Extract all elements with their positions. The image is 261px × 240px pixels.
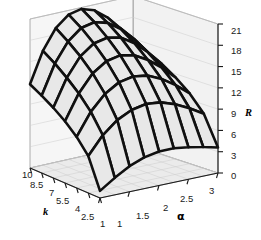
r-axis-tick-label: 12 bbox=[231, 88, 242, 98]
k-axis-tick-label: 2.5 bbox=[81, 212, 94, 222]
alpha-axis-tick-label: 3 bbox=[209, 186, 214, 196]
k-axis-title: k bbox=[43, 207, 48, 218]
r-axis-tick-label: 18 bbox=[231, 46, 242, 56]
plot-canvas bbox=[0, 0, 261, 240]
alpha-axis-tick-label: 1.5 bbox=[136, 211, 149, 221]
r-axis-title: R bbox=[245, 108, 252, 119]
r-axis-tick-label: 15 bbox=[231, 67, 242, 77]
k-axis-tick-label: 4 bbox=[75, 204, 80, 214]
surface-plot-3d: 108.575.542.5111.522.53211815129630kαR bbox=[0, 0, 261, 240]
k-axis-tick-label: 7 bbox=[49, 188, 54, 198]
alpha-axis-tick-label: 2 bbox=[163, 203, 168, 213]
alpha-axis-tick-label: 2.5 bbox=[180, 194, 193, 204]
alpha-axis-title: α bbox=[177, 211, 185, 222]
k-axis-tick-label: 5.5 bbox=[56, 196, 69, 206]
r-axis-tick-label: 0 bbox=[231, 171, 236, 181]
k-axis-tick-label: 1 bbox=[100, 219, 105, 229]
alpha-axis-tick-label: 1 bbox=[117, 219, 122, 229]
r-axis-tick-label: 9 bbox=[231, 109, 236, 119]
r-axis-tick-label: 3 bbox=[231, 151, 236, 161]
r-axis-tick-label: 21 bbox=[231, 26, 242, 36]
r-axis-tick-label: 6 bbox=[231, 130, 236, 140]
k-axis-tick-label: 8.5 bbox=[30, 180, 43, 190]
